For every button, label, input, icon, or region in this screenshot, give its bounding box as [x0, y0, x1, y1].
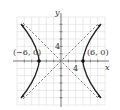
vertex-right	[81, 59, 85, 63]
hyperbola-graph: (−6, 0) (6, 0) 4 4 y x	[0, 0, 120, 110]
vertex-left-label: (−6, 0)	[13, 48, 41, 57]
vertex-left	[37, 59, 41, 63]
x-tick-label: 4	[73, 64, 78, 73]
y-axis-label: y	[54, 8, 60, 17]
x-axis-label: x	[105, 63, 110, 72]
vertex-right-label: (6, 0)	[87, 48, 109, 57]
y-tick-label: 4	[55, 42, 60, 51]
